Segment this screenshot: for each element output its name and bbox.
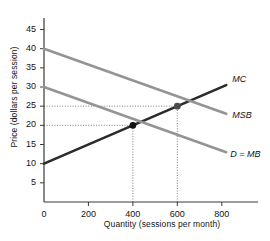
axes-group: [44, 18, 258, 202]
x-tick-label: 200: [73, 209, 103, 219]
y-tick-label: 40: [14, 43, 36, 53]
y-tick-label: 5: [14, 177, 36, 187]
series-label-msb: MSB: [232, 110, 252, 120]
y-tick-label: 15: [14, 139, 36, 149]
y-tick-label: 10: [14, 158, 36, 168]
figure-caption-clipped: [0, 233, 270, 241]
chart-canvas: [0, 0, 270, 241]
series-line-msb: [44, 49, 226, 114]
series-label-mc: MC: [232, 74, 246, 84]
series-label-dmb: D = MB: [230, 149, 260, 159]
x-tick-label: 0: [29, 209, 59, 219]
y-tick-label: 25: [14, 100, 36, 110]
marker-private-equilibrium: [129, 122, 136, 129]
y-tick-label: 45: [14, 24, 36, 34]
x-axis-title: Quantity (sessions per month): [62, 219, 262, 229]
x-tick-label: 400: [118, 209, 148, 219]
y-tick-label: 20: [14, 119, 36, 129]
x-tick-label: 800: [207, 209, 237, 219]
y-tick-label: 30: [14, 81, 36, 91]
x-tick-label: 600: [162, 209, 192, 219]
y-tick-label: 35: [14, 62, 36, 72]
marker-efficient-quantity: [174, 103, 181, 110]
chart-figure: Price (dollars per session) Quantity (se…: [0, 0, 270, 241]
